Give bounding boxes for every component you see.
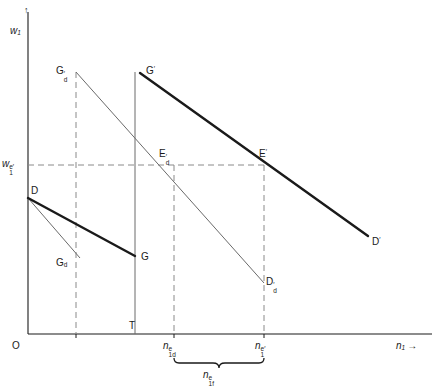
guide-lines (28, 72, 264, 334)
origin-label: O (12, 341, 20, 351)
x-tick-group (76, 334, 264, 338)
point-label-Gd-prime: G′d (56, 66, 70, 76)
point-label-Gd: Gd (56, 258, 67, 268)
curve-Gd-prime-Dd-prime (76, 72, 264, 283)
point-label-E-prime: E′ (259, 149, 267, 159)
y-tick-label-equilibrium-wage: we′1 (2, 159, 16, 169)
curve-D-G (28, 198, 135, 256)
point-label-T: T (129, 321, 135, 331)
point-label-D-prime: D′ (372, 237, 380, 247)
curve-D-Gd (28, 198, 80, 258)
curve-G-prime-D-prime (140, 73, 368, 236)
x-tick-label-n1ed: ne1d (163, 341, 179, 351)
point-label-Ed-prime: E′d (159, 149, 172, 159)
economics-diagram: ↑ w1 we′1 O n1→ ne1d ne′1 ne1f G′d G′ E′… (0, 0, 437, 386)
point-label-D: D (31, 186, 38, 196)
x-axis-arrow-icon: → (405, 340, 417, 351)
x-tick-label-n1e-prime: ne′1 (255, 341, 270, 351)
point-label-G-prime: G′ (146, 66, 155, 76)
n1f-brace (174, 358, 264, 368)
y-axis-label: w1 (10, 26, 21, 36)
axis-group (28, 18, 432, 334)
point-label-Dd-prime: D′d (266, 277, 279, 287)
x-axis-label: n1→ (396, 341, 417, 351)
diagram-canvas (0, 0, 437, 386)
point-label-G: G (141, 252, 149, 262)
brace-label-n1f: ne1f (203, 370, 218, 380)
y-axis-arrow-icon: ↑ (24, 6, 29, 15)
